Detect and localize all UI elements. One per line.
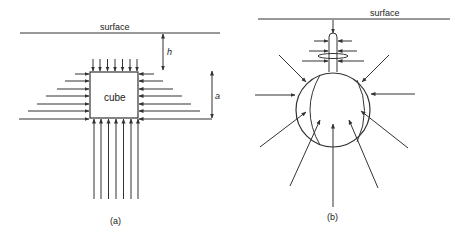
stem-ring: [318, 54, 348, 59]
top-pressure-arrows: [93, 59, 137, 71]
diagram-canvas: surface h cube a (a): [0, 0, 455, 238]
sphere-inner-curve-left: [310, 75, 320, 145]
panel-a: [19, 33, 220, 199]
panel-b: [255, 19, 450, 207]
depth-h-label: h: [167, 47, 172, 57]
side-a-label: a: [215, 91, 220, 101]
sphere-pressure-arrows: [255, 55, 415, 207]
cube-label: cube: [104, 92, 126, 103]
sphere-stem: [329, 33, 337, 72]
caption-b: (b): [327, 212, 338, 222]
right-pressure-arrows: [139, 74, 212, 119]
surface-label-b: surface: [370, 8, 400, 18]
caption-a: (a): [110, 216, 121, 226]
surface-label-a: surface: [100, 22, 130, 32]
left-pressure-arrows: [19, 74, 89, 119]
pressure-diagram: surface h cube a (a): [0, 0, 455, 238]
bottom-pressure-arrows: [94, 119, 138, 199]
